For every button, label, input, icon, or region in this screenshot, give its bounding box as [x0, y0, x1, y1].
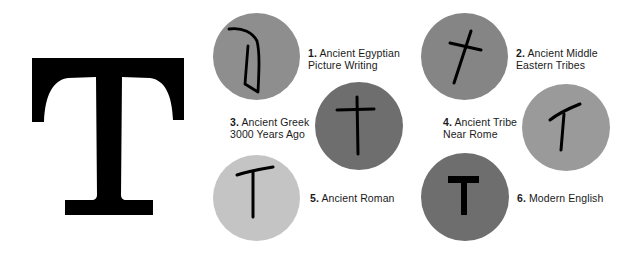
stage-1-label: 1. Ancient Egyptian Picture Writing	[308, 47, 400, 71]
stage-2-line1: Ancient Middle	[527, 47, 597, 59]
stage-1-line1: Ancient Egyptian	[319, 47, 399, 59]
stage-6-circle	[421, 153, 509, 241]
stage-4-line1: Ancient Tribe	[454, 116, 517, 128]
stage-4-number: 4.	[443, 116, 452, 128]
stage-5-line1: Ancient Roman	[321, 192, 394, 204]
roman-glyph-icon	[213, 155, 300, 241]
stage-6-line1: Modern English	[529, 192, 603, 204]
stage-5-circle	[213, 155, 300, 241]
stage-4-line2: Near Rome	[443, 128, 517, 140]
stage-5-number: 5.	[310, 192, 319, 204]
modern-glyph-icon	[421, 153, 509, 241]
stage-2-label: 2. Ancient Middle Eastern Tribes	[516, 47, 598, 71]
stage-5-label: 5. Ancient Roman	[310, 192, 395, 204]
stage-6-number: 6.	[517, 192, 526, 204]
stage-2-line2: Eastern Tribes	[516, 59, 598, 71]
egyptian-glyph-icon	[213, 13, 300, 100]
stage-3-circle	[315, 82, 403, 170]
tribe-near-rome-glyph-icon	[522, 84, 610, 171]
stage-1-number: 1.	[308, 47, 317, 59]
stage-3-number: 3.	[230, 116, 239, 128]
stage-4-circle	[522, 84, 610, 171]
middle-eastern-glyph-icon	[421, 13, 508, 100]
stage-2-number: 2.	[516, 47, 525, 59]
stage-4-label: 4. Ancient Tribe Near Rome	[443, 116, 517, 140]
large-serif-letter-t	[0, 0, 210, 255]
stage-1-circle	[213, 13, 300, 100]
stage-3-label: 3. Ancient Greek 3000 Years Ago	[230, 116, 309, 140]
greek-glyph-icon	[315, 82, 403, 170]
stage-1-line2: Picture Writing	[308, 59, 400, 71]
stage-3-line2: 3000 Years Ago	[230, 128, 309, 140]
stage-6-label: 6. Modern English	[517, 192, 603, 204]
stage-2-circle	[421, 13, 508, 100]
stage-3-line1: Ancient Greek	[241, 116, 309, 128]
